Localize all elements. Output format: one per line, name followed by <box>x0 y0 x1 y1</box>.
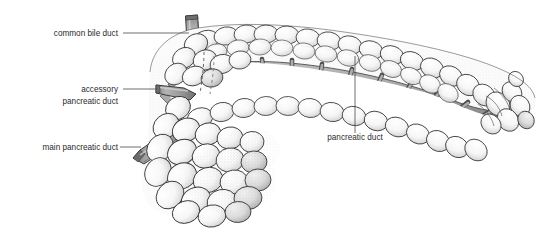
label-pancreatic-duct: pancreatic duct <box>327 133 383 142</box>
label-accessory-pancreatic-duct-line2: pancreatic duct <box>62 97 118 106</box>
pancreas-body <box>133 24 540 229</box>
label-main-pancreatic-duct: main pancreatic duct <box>42 143 118 152</box>
label-accessory-pancreatic-duct-line1: accessory <box>81 85 119 94</box>
anatomical-illustration: common bile duct accessory pancreatic du… <box>0 0 546 230</box>
label-common-bile-duct: common bile duct <box>54 29 119 38</box>
pancreas-duct-diagram: common bile duct accessory pancreatic du… <box>0 0 546 230</box>
